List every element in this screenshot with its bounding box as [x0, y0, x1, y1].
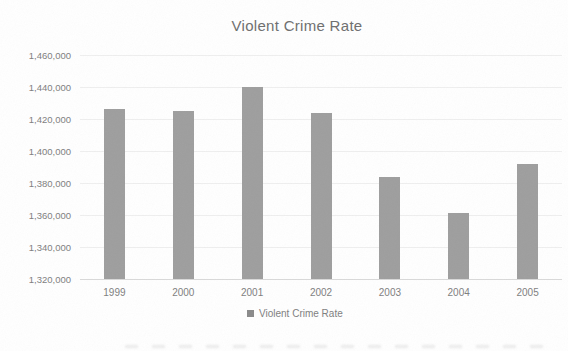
- y-axis-tick-label: 1,360,000: [0, 210, 71, 221]
- bar-2005: [517, 164, 538, 279]
- y-axis-tick-label: 1,420,000: [0, 114, 71, 125]
- bar-2001: [242, 87, 263, 279]
- bar-1999: [104, 109, 125, 279]
- y-axis-tick-label: 1,320,000: [0, 274, 71, 285]
- scan-artifact: [125, 345, 543, 348]
- y-axis-tick-label: 1,380,000: [0, 178, 71, 189]
- x-axis-label-2002: 2002: [297, 287, 345, 299]
- y-axis-tick-label: 1,440,000: [0, 82, 71, 93]
- legend-label: Violent Crime Rate: [259, 308, 343, 319]
- bar-2002: [311, 113, 332, 279]
- x-axis-label-2005: 2005: [504, 287, 552, 299]
- gridline: [80, 87, 562, 88]
- violent-crime-rate-chart: Violent Crime Rate 1,320,0001,340,0001,3…: [0, 0, 568, 351]
- y-axis-tick-label: 1,340,000: [0, 242, 71, 253]
- x-axis-label-2004: 2004: [435, 287, 483, 299]
- x-axis-label-1999: 1999: [90, 287, 138, 299]
- y-axis-tick-label: 1,460,000: [0, 50, 71, 61]
- y-axis-tick-label: 1,400,000: [0, 146, 71, 157]
- legend-marker-icon: [247, 310, 254, 317]
- plot-area: 1,320,0001,340,0001,360,0001,380,0001,40…: [0, 0, 568, 351]
- bar-2004: [448, 213, 469, 279]
- x-axis-label-2001: 2001: [228, 287, 276, 299]
- x-axis-line: [80, 279, 562, 280]
- chart-legend: Violent Crime Rate: [247, 308, 343, 319]
- bar-2003: [379, 177, 400, 279]
- bar-2000: [173, 111, 194, 279]
- gridline: [80, 55, 562, 56]
- x-axis-label-2000: 2000: [159, 287, 207, 299]
- x-axis-label-2003: 2003: [366, 287, 414, 299]
